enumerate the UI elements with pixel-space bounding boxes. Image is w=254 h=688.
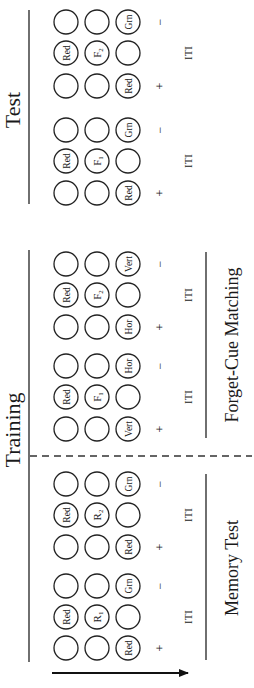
stimulus-key-blank [54, 574, 78, 598]
stimulus-key-blank [85, 315, 109, 339]
stimulus-label: Grn [124, 476, 134, 491]
iti-label: ITI [182, 46, 194, 60]
stimulus-key-blank [116, 385, 140, 409]
stimulus-label: Grn [124, 578, 134, 593]
stimulus-label: F2 [91, 48, 105, 58]
stimulus-key-blank [85, 636, 109, 660]
reward-plus-sign: + [153, 425, 167, 432]
nonreward-minus-sign: − [153, 260, 167, 267]
stimulus-key-blank [54, 315, 78, 339]
stimulus-key-blank [85, 181, 109, 205]
stimulus-label: Red [124, 640, 134, 656]
stimulus-key-blank [116, 41, 140, 65]
stimulus-key-blank [85, 10, 109, 34]
nonreward-minus-sign: − [153, 18, 167, 25]
stimulus-key-blank [54, 252, 78, 276]
stimulus-key-blank [116, 605, 140, 629]
reward-plus-sign: + [153, 189, 167, 196]
stimulus-label: Red [62, 389, 72, 405]
stimulus-key-blank [85, 574, 109, 598]
reward-plus-sign: + [153, 323, 167, 330]
stimulus-label: Vert [124, 256, 134, 272]
trial-memory-test-1: Red+RedR1Grn−ITI [54, 574, 194, 660]
stimulus-label: Red [62, 45, 72, 61]
stimulus-key-blank [54, 636, 78, 660]
stimulus-key-blank [54, 10, 78, 34]
stimulus-key-blank [54, 535, 78, 559]
stimulus-key-blank [85, 74, 109, 98]
stimulus-label: Red [124, 539, 134, 555]
stimulus-label: Hor [124, 319, 134, 335]
stimulus-label: F2 [91, 290, 105, 300]
stimulus-key-blank [54, 74, 78, 98]
forget-cue-procedure-diagram: Test Training Forget-Cue Matching Memory… [0, 0, 254, 688]
nonreward-minus-sign: − [153, 126, 167, 133]
stimulus-label: Red [124, 185, 134, 201]
stimulus-key-blank [54, 417, 78, 441]
stimulus-key-blank [116, 283, 140, 307]
stimulus-label: Vert [124, 421, 134, 437]
stimulus-key-blank [85, 118, 109, 142]
trial-test-2: Red+RedF2Grn−ITI [54, 10, 194, 98]
stimulus-label: R1 [91, 611, 105, 622]
stimulus-label: R2 [91, 509, 105, 520]
iti-label: ITI [182, 154, 194, 168]
trial-test-1: Red+RedF1Grn−ITI [54, 118, 194, 205]
stimulus-key-blank [85, 252, 109, 276]
iti-label: ITI [182, 610, 194, 624]
trial-grid: Red+RedF1Grn−ITIRed+RedF2Grn−ITIVert+Red… [54, 10, 194, 660]
test-phase-title: Test [0, 92, 25, 128]
nonreward-minus-sign: − [153, 582, 167, 589]
nonreward-minus-sign: − [153, 362, 167, 369]
trial-forget-cue-matching-1: Vert+RedF1Hor−ITI [54, 354, 194, 441]
forget-cue-matching-label: Forget-Cue Matching [222, 267, 242, 422]
stimulus-label: F1 [91, 156, 105, 166]
stimulus-key-blank [85, 354, 109, 378]
reward-plus-sign: + [153, 543, 167, 550]
reward-plus-sign: + [153, 82, 167, 89]
iti-label: ITI [182, 390, 194, 404]
stimulus-key-blank [85, 472, 109, 496]
training-phase-title: Training [0, 393, 25, 468]
stimulus-label: Red [124, 78, 134, 94]
memory-test-label: Memory Test [222, 520, 242, 616]
stimulus-key-blank [85, 417, 109, 441]
stimulus-label: F1 [91, 392, 105, 402]
stimulus-key-blank [85, 535, 109, 559]
stimulus-key-blank [54, 118, 78, 142]
stimulus-label: Red [62, 287, 72, 303]
stimulus-label: Hor [124, 358, 134, 374]
stimulus-key-blank [54, 181, 78, 205]
stimulus-key-blank [54, 472, 78, 496]
trial-forget-cue-matching-2: Hor+RedF2Vert−ITI [54, 252, 194, 339]
trial-memory-test-2: Red+RedR2Grn−ITI [54, 472, 194, 559]
nonreward-minus-sign: − [153, 480, 167, 487]
stimulus-label: Red [62, 609, 72, 625]
reward-plus-sign: + [153, 644, 167, 651]
stimulus-key-blank [116, 149, 140, 173]
iti-label: ITI [182, 508, 194, 522]
stimulus-label: Red [62, 507, 72, 523]
stimulus-label: Red [62, 153, 72, 169]
stimulus-key-blank [116, 503, 140, 527]
iti-label: ITI [182, 288, 194, 302]
stimulus-label: Grn [124, 14, 134, 29]
stimulus-label: Grn [124, 122, 134, 137]
stimulus-key-blank [54, 354, 78, 378]
